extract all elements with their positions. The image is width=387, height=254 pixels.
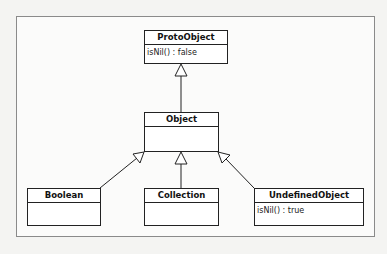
boolean-to-object-line <box>100 158 137 188</box>
class-boolean: Boolean <box>27 188 101 226</box>
class-object: Object <box>144 112 219 152</box>
class-name: Collection <box>145 189 218 203</box>
class-attributes-empty <box>145 203 218 205</box>
class-name: ProtoObject <box>145 31 227 45</box>
class-name: Object <box>145 113 218 127</box>
class-collection: Collection <box>144 188 219 226</box>
class-attributes-empty <box>145 127 218 129</box>
class-attribute: isNil() : false <box>145 45 227 58</box>
generalization-arrowhead-icon <box>175 64 187 76</box>
class-name: UndefinedObject <box>255 189 363 203</box>
generalization-arrowhead-icon <box>133 152 144 163</box>
generalization-arrowhead-icon <box>175 152 187 164</box>
class-attributes-empty <box>28 203 100 205</box>
undefinedobject-to-object-line <box>226 159 254 188</box>
class-protoobject: ProtoObject isNil() : false <box>144 30 228 64</box>
class-undefinedobject: UndefinedObject isNil() : true <box>254 188 364 226</box>
class-attribute: isNil() : true <box>255 203 363 216</box>
class-name: Boolean <box>28 189 100 203</box>
